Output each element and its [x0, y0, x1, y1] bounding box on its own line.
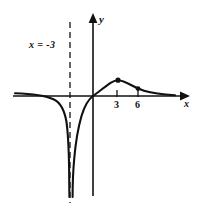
curve-left-branch [15, 93, 69, 197]
math-graph-figure: x = -3 y x 3 6 [0, 0, 200, 211]
y-axis [89, 13, 98, 196]
marked-point-local-maximum [115, 78, 120, 83]
curve-right-branch [73, 80, 175, 197]
graph-canvas [0, 0, 200, 211]
x-axis-arrowhead [180, 92, 190, 101]
marked-point-inflection [136, 86, 141, 91]
y-axis-arrowhead [89, 13, 98, 23]
